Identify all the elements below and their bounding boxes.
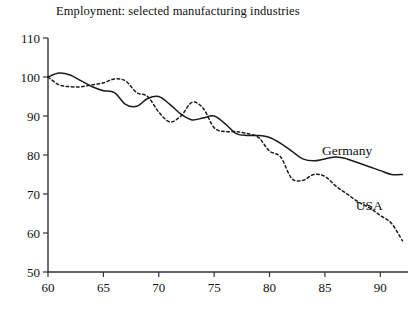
y-tick-label: 110	[21, 31, 40, 46]
chart-plot-area: 5060708090100110 60657075808590 GermanyU…	[0, 0, 419, 313]
x-tick-label: 80	[263, 280, 276, 295]
y-tick-label: 80	[27, 148, 40, 163]
x-tick-label: 75	[208, 280, 221, 295]
x-tick-label: 60	[42, 280, 55, 295]
x-tick-label: 65	[97, 280, 110, 295]
x-axis-ticks	[48, 272, 380, 277]
x-axis-tick-labels: 60657075808590	[42, 280, 387, 295]
y-tick-label: 60	[27, 226, 40, 241]
y-tick-label: 70	[27, 187, 40, 202]
series-label-usa: USA	[356, 198, 383, 213]
y-axis-ticks	[43, 38, 48, 272]
y-tick-label: 100	[21, 70, 41, 85]
x-tick-label: 85	[318, 280, 331, 295]
x-tick-label: 70	[152, 280, 165, 295]
y-axis-tick-labels: 5060708090100110	[21, 31, 41, 280]
x-tick-label: 90	[374, 280, 387, 295]
chart-container: Employment: selected manufacturing indus…	[0, 0, 419, 313]
series-label-germany: Germany	[322, 143, 372, 158]
y-tick-label: 50	[27, 265, 40, 280]
series-annotations: GermanyUSA	[322, 143, 383, 213]
y-tick-label: 90	[27, 109, 40, 124]
series-line-germany	[48, 73, 402, 175]
